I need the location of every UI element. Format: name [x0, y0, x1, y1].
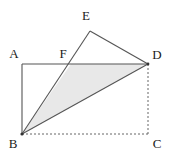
geometry-canvas: A B C D E F: [0, 0, 171, 160]
vertex-label-D: D: [152, 47, 161, 62]
vertex-label-B: B: [9, 136, 18, 151]
vertex-label-A: A: [9, 46, 19, 61]
geometry-diagram: A B C D E F: [0, 0, 171, 160]
vertex-label-F: F: [59, 46, 66, 61]
vertex-label-C: C: [153, 136, 162, 151]
vertex-label-E: E: [82, 8, 90, 23]
segment-ED: [90, 31, 148, 64]
vertex-point-B: [20, 132, 23, 135]
vertex-point-D: [147, 63, 150, 66]
